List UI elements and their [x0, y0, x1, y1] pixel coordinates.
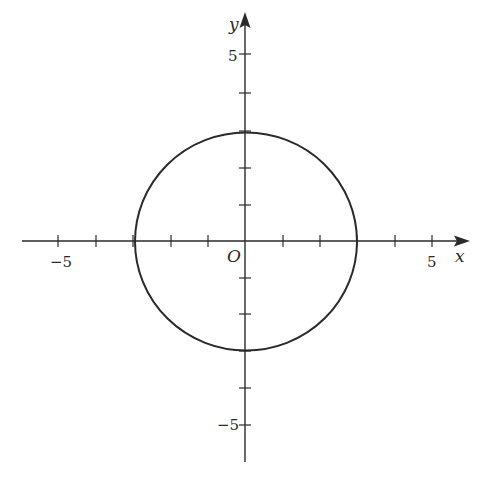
coordinate-plane: −5 5 5 −5 O x y [0, 0, 489, 491]
x-tick-label-5: 5 [427, 253, 437, 271]
x-axis-label: x [455, 246, 465, 266]
origin-label: O [227, 246, 241, 266]
y-tick-label-5: 5 [228, 47, 238, 65]
y-tick-label-neg5: −5 [217, 416, 239, 434]
x-tick-label-neg5: −5 [50, 253, 72, 271]
y-axis-label: y [228, 14, 239, 34]
